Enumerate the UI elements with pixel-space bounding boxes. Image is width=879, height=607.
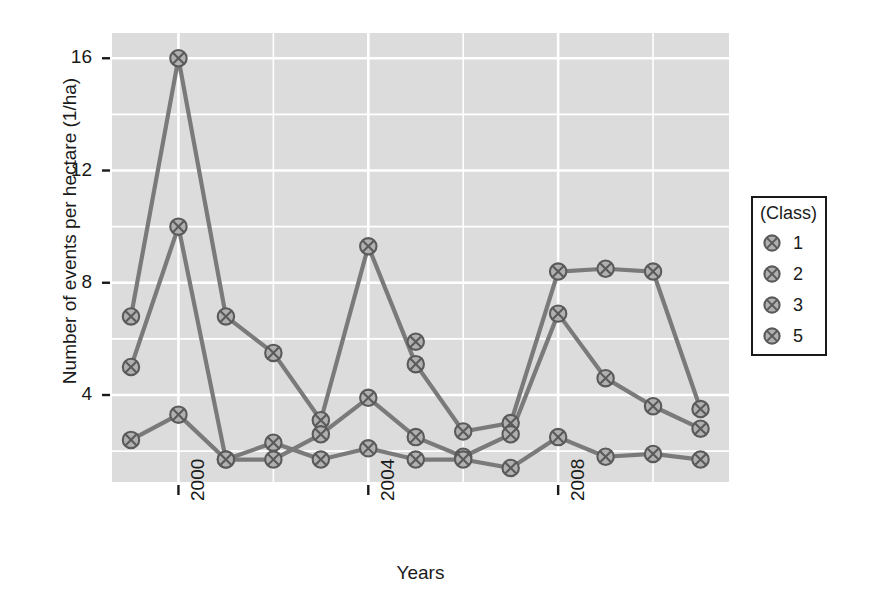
legend-item-3[interactable]: 3	[762, 291, 803, 319]
data-point-marker	[265, 435, 281, 451]
data-point-marker	[645, 263, 661, 279]
y-axis-label: Number of events per hectare (1/ha)	[59, 21, 81, 441]
y-tick-label: 4	[52, 383, 92, 405]
x-tick-label: 2004	[377, 459, 399, 501]
legend-item-label: 3	[793, 295, 803, 316]
data-point-marker	[692, 401, 708, 417]
data-point-marker	[218, 451, 234, 467]
data-point-marker	[645, 398, 661, 414]
data-point-marker	[360, 390, 376, 406]
data-point-marker	[597, 449, 613, 465]
data-point-marker	[764, 297, 779, 312]
chart-figure: Number of events per hectare (1/ha) Year…	[0, 0, 879, 607]
data-point-marker	[597, 370, 613, 386]
data-point-marker	[550, 263, 566, 279]
legend-item-2[interactable]: 2	[762, 260, 803, 288]
data-point-marker	[408, 333, 424, 349]
legend-marker-icon	[762, 264, 782, 284]
legend-marker-icon	[762, 295, 782, 315]
data-point-marker	[550, 429, 566, 445]
x-axis-label: Years	[112, 562, 729, 584]
x-tick-label: 2008	[567, 459, 589, 501]
data-point-marker	[550, 305, 566, 321]
legend-marker-icon	[762, 326, 782, 346]
data-point-marker	[265, 451, 281, 467]
legend: (Class) 1235	[751, 196, 827, 356]
plot-area	[0, 0, 879, 607]
x-tick-label: 2000	[187, 459, 209, 501]
data-point-marker	[123, 432, 139, 448]
data-point-marker	[597, 261, 613, 277]
data-point-marker	[455, 451, 471, 467]
data-point-marker	[692, 420, 708, 436]
data-point-marker	[502, 426, 518, 442]
legend-item-5[interactable]: 5	[762, 322, 803, 350]
data-point-marker	[360, 238, 376, 254]
data-point-marker	[265, 345, 281, 361]
legend-item-label: 1	[793, 233, 803, 254]
data-point-marker	[692, 451, 708, 467]
data-point-marker	[408, 356, 424, 372]
legend-item-1[interactable]: 1	[762, 229, 803, 257]
y-tick-label: 8	[52, 271, 92, 293]
data-point-marker	[123, 359, 139, 375]
legend-title: (Class)	[760, 203, 817, 224]
data-point-marker	[170, 406, 186, 422]
y-tick-label: 12	[52, 159, 92, 181]
data-point-marker	[408, 451, 424, 467]
legend-marker-icon	[762, 233, 782, 253]
data-point-marker	[313, 451, 329, 467]
legend-item-label: 2	[793, 264, 803, 285]
y-tick-label: 16	[52, 46, 92, 68]
data-point-marker	[408, 429, 424, 445]
data-point-marker	[645, 446, 661, 462]
data-point-marker	[170, 50, 186, 66]
legend-item-label: 5	[793, 326, 803, 347]
panel-background	[112, 33, 729, 482]
data-point-marker	[170, 218, 186, 234]
data-point-marker	[764, 328, 779, 343]
data-point-marker	[455, 423, 471, 439]
data-point-marker	[313, 426, 329, 442]
data-point-marker	[502, 460, 518, 476]
data-point-marker	[764, 266, 779, 281]
data-point-marker	[123, 308, 139, 324]
series-markers-5	[408, 333, 424, 349]
data-point-marker	[218, 308, 234, 324]
data-point-marker	[360, 440, 376, 456]
data-point-marker	[764, 235, 779, 250]
